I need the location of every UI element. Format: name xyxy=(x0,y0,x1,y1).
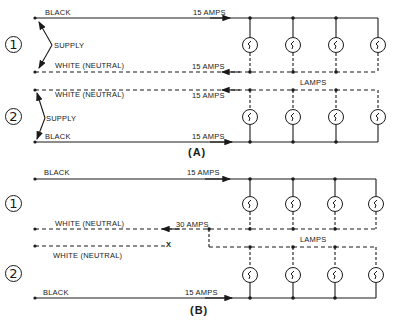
a-circuit2-number: 2 xyxy=(5,108,22,125)
a2-supply-label: SUPPLY xyxy=(46,114,76,123)
a-circuit1-number: 1 xyxy=(5,36,22,53)
lamp-icons xyxy=(243,38,386,283)
b1-black-current: 15 AMPS xyxy=(187,168,220,177)
b2-black-current: 15 AMPS xyxy=(185,288,218,297)
b-circuit1-number: 1 xyxy=(5,195,22,212)
b1-neutral-label: WHITE (NEUTRAL) xyxy=(55,219,124,228)
a1-supply-label: SUPPLY xyxy=(54,41,84,50)
b-lamps-label: LAMPS xyxy=(300,235,326,244)
neutral-break-mark: X xyxy=(166,240,171,249)
a-lamps-label: LAMPS xyxy=(300,78,326,87)
b-circuit2-number: 2 xyxy=(5,265,22,282)
caption-b: (B) xyxy=(190,304,208,316)
a1-black-current: 15 AMPS xyxy=(193,8,226,17)
a2-neutral-current: 15 AMPS xyxy=(192,91,225,100)
b2-black-label: BLACK xyxy=(43,288,69,297)
a2-neutral-label: WHITE (NEUTRAL) xyxy=(55,90,124,99)
b1-black-label: BLACK xyxy=(44,168,70,177)
a2-black-current: 15 AMPS xyxy=(192,132,225,141)
caption-a: (A) xyxy=(188,146,206,158)
a1-neutral-label: WHITE (NEUTRAL) xyxy=(55,61,124,70)
a1-neutral-current: 15 AMPS xyxy=(192,62,225,71)
b2-neutral-label: WHITE (NEUTRAL) xyxy=(53,251,122,260)
a2-black-label: BLACK xyxy=(45,132,71,141)
a1-black-label: BLACK xyxy=(45,8,71,17)
b1-neutral-current: 30 AMPS xyxy=(176,220,209,229)
